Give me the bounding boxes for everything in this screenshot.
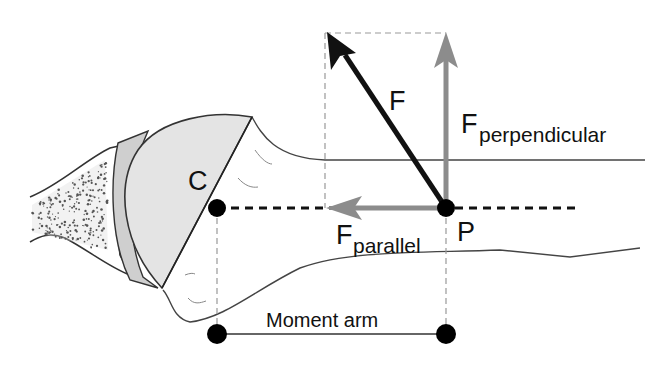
svg-text:F: F [461,109,478,139]
center-point-c [208,199,226,217]
point-p [437,199,455,217]
svg-text:F: F [336,220,353,250]
label-p: P [457,217,475,247]
joint-moment-diagram: C P F F perpendicular F parallel Moment … [0,0,661,365]
label-moment-arm: Moment arm [266,309,378,331]
parallel-component-vector [326,196,446,220]
label-f-parallel: F parallel [336,220,421,257]
dashed-guides [217,33,446,334]
force-vector [327,32,446,208]
label-c: C [188,166,208,196]
label-f-perpendicular: F perpendicular [461,109,606,146]
label-f: F [389,86,406,116]
svg-text:parallel: parallel [353,234,421,257]
perpendicular-component-vector [434,32,458,208]
svg-text:perpendicular: perpendicular [479,123,606,146]
